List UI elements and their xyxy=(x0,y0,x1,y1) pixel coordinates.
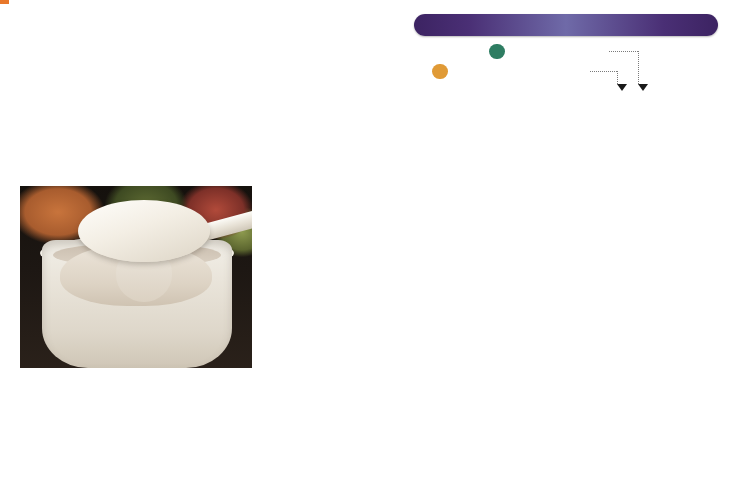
photo-image xyxy=(20,186,252,368)
rda-women-pointer-icon xyxy=(617,84,627,91)
infographic-title-strip xyxy=(0,0,736,9)
x-axis xyxy=(252,462,736,501)
riboflavin-chart xyxy=(252,10,736,501)
infographic-marker-square xyxy=(0,0,9,4)
rda-men-callout xyxy=(489,44,505,59)
nutrient-header-bar xyxy=(414,14,718,36)
food-photo xyxy=(20,186,252,368)
rda-men-leader-drop xyxy=(638,51,639,84)
rda-women-callout xyxy=(432,64,448,79)
rda-men-pointer-icon xyxy=(638,84,648,91)
rda-women-leader-drop xyxy=(617,71,618,84)
rda-women-leader-line xyxy=(590,71,617,85)
spoon-bowl-with-yogurt xyxy=(78,200,210,262)
